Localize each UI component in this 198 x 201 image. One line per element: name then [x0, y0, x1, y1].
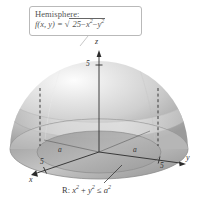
formula-lhs: f(x, y) =	[35, 19, 63, 29]
callout-leader-line	[80, 36, 88, 46]
z-axis-tick-5: 5	[86, 60, 90, 68]
region-x-exponent: 2	[76, 184, 79, 190]
y-axis-tick-5: 5	[160, 162, 164, 170]
region-plus: +	[81, 185, 86, 195]
x-axis-tick-5: 5	[40, 158, 44, 166]
hemisphere-callout-box: Hemisphere: f(x, y) = √ 25−x2−y2	[29, 6, 142, 36]
radical-sign: √ 25−x2−y2	[65, 18, 105, 29]
region-relation: ≤	[97, 185, 102, 195]
z-axis-label: z	[95, 38, 98, 46]
region-label: R: x2 + y2 ≤ a2	[62, 186, 111, 195]
y-axis-label: y	[186, 154, 190, 162]
x-axis-label: x	[29, 176, 33, 184]
region-y-exponent: 2	[92, 184, 95, 190]
radius-label-left: a	[58, 146, 62, 154]
radicand-constant: 25	[73, 19, 82, 29]
region-prefix: R:	[62, 185, 70, 195]
region-a-exponent: 2	[108, 184, 111, 190]
figure-canvas: Hemisphere: f(x, y) = √ 25−x2−y2 z y x 5…	[0, 0, 198, 201]
radius-label-right: a	[133, 146, 137, 154]
radicand-y-exponent: 2	[101, 18, 104, 24]
callout-formula: f(x, y) = √ 25−x2−y2	[35, 19, 137, 30]
